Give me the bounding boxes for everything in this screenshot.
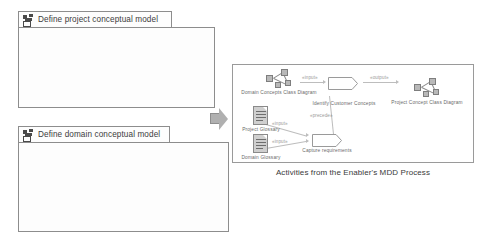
package-title: Define domain conceptual model (38, 130, 160, 139)
stereotype-r-output-1: «output» (370, 75, 389, 80)
package-body (18, 27, 215, 108)
artifact-domain-concepts-class-diagram-icon (266, 69, 292, 89)
action-label-capture-requirements: Capture requirements (292, 148, 362, 153)
edge-r-domain-class-to-identify (300, 82, 324, 83)
arrowhead (396, 80, 399, 84)
edge-r-identify-to-project-class (363, 82, 397, 83)
package-define-project-conceptual-model: Define project conceptual model (18, 11, 215, 108)
package-tab: Define domain conceptual model (18, 126, 170, 143)
artifact-label-domain-glossary-r: Domain Glossary (238, 155, 284, 160)
artifact-project-concept-class-diagram-icon (414, 78, 440, 98)
transition-arrow-icon (210, 108, 230, 130)
action-label-identify-customer-concepts: Identify Customer Concepts (304, 101, 384, 106)
artifact-project-glossary-r-icon (253, 106, 268, 125)
artifact-label-project-glossary-r: Project Glossary (238, 127, 284, 132)
artifact-domain-glossary-r-icon (253, 134, 268, 153)
stereotype-r-input-1: «input» (302, 75, 318, 80)
figure-caption: Activities from the Enabler's MDD Proces… (232, 168, 474, 177)
arrowhead (306, 139, 309, 143)
package-tab: Define project conceptual model (18, 11, 172, 28)
arrowhead (306, 133, 309, 137)
arrowhead (323, 80, 326, 84)
action-shape (312, 134, 342, 147)
action-shape (328, 77, 358, 90)
action-identify-customer-concepts (328, 76, 358, 89)
package-body (18, 142, 229, 232)
package-define-domain-conceptual-model: Define domain conceptual model (18, 126, 229, 232)
artifact-label-project-concept-class-diagram: Project Concept Class Diagram (384, 100, 470, 105)
stereotype-r-input-3: «input» (272, 139, 288, 144)
stereotype-r-input-2: «input» (272, 121, 288, 126)
package-title: Define project conceptual model (38, 15, 158, 24)
package-icon (23, 14, 34, 25)
stereotype-r-precede: «precede» (310, 113, 333, 118)
action-capture-requirements (312, 133, 342, 146)
artifact-label-domain-concepts-class-diagram: Domain Concepts Class Diagram (236, 90, 322, 95)
package-icon (23, 129, 34, 140)
figure-canvas: Define project conceptual model «output»… (0, 0, 478, 246)
